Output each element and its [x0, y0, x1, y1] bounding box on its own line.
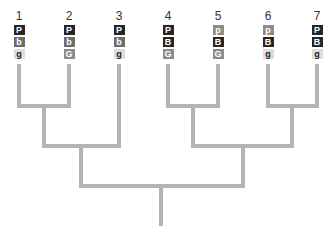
branch-leaf-5 — [216, 64, 220, 108]
leaf-1: 1 P b g — [9, 10, 29, 59]
branch-leaf-3 — [117, 64, 121, 148]
clade-4-5-stem — [191, 104, 195, 148]
leaf-6: 6 p B g — [258, 10, 278, 59]
gene-box: B — [263, 37, 274, 47]
branch-leaf-7 — [315, 64, 319, 108]
gene-box: B — [163, 37, 174, 47]
leaf-label: 3 — [116, 10, 123, 23]
leaf-4: 4 P B G — [158, 10, 178, 59]
root-stem — [159, 184, 163, 226]
gene-box: p — [213, 25, 224, 35]
branch-leaf-2 — [67, 64, 71, 108]
leaf-3: 3 P b g — [109, 10, 129, 59]
gene-box: g — [312, 49, 323, 59]
clade-4-7-stem — [241, 144, 245, 188]
leaf-label: 6 — [265, 10, 272, 23]
clade-1-2-stem — [42, 104, 46, 148]
gene-box: p — [263, 25, 274, 35]
gene-box: P — [64, 25, 75, 35]
gene-box: b — [114, 37, 125, 47]
leaf-label: 7 — [314, 10, 321, 23]
gene-box: P — [163, 25, 174, 35]
gene-box: g — [263, 49, 274, 59]
gene-box: b — [64, 37, 75, 47]
gene-box: G — [64, 49, 75, 59]
leaf-label: 2 — [66, 10, 73, 23]
leaf-5: 5 p B G — [208, 10, 228, 59]
clade-1-2-3-stem — [79, 144, 83, 188]
branch-leaf-1 — [17, 64, 21, 108]
gene-box: b — [14, 37, 25, 47]
leaf-7: 7 P B g — [307, 10, 327, 59]
leaf-label: 5 — [215, 10, 222, 23]
leaf-label: 1 — [16, 10, 23, 23]
gene-box: P — [114, 25, 125, 35]
branch-leaf-6 — [266, 64, 270, 108]
gene-box: g — [14, 49, 25, 59]
gene-box: g — [114, 49, 125, 59]
gene-box: G — [163, 49, 174, 59]
gene-box: P — [14, 25, 25, 35]
clade-6-7-stem — [290, 104, 294, 148]
branch-leaf-4 — [166, 64, 170, 108]
gene-box: P — [312, 25, 323, 35]
leaf-label: 4 — [165, 10, 172, 23]
leaf-2: 2 P b G — [59, 10, 79, 59]
gene-box: G — [213, 49, 224, 59]
gene-box: B — [213, 37, 224, 47]
gene-box: B — [312, 37, 323, 47]
